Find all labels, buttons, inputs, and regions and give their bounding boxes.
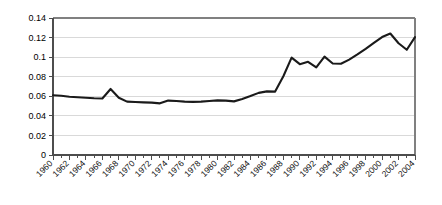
y-tick-label: 0.08: [28, 72, 46, 82]
y-tick-label: 0.12: [28, 33, 46, 43]
y-tick-label: 0.04: [28, 111, 46, 121]
chart-canvas: 00.020.040.060.080.10.120.14 19601962196…: [0, 0, 442, 205]
y-tick-label: 0: [41, 150, 46, 160]
y-tick-label: 0.14: [28, 13, 46, 23]
line-chart-figure: 00.020.040.060.080.10.120.14 19601962196…: [0, 0, 442, 205]
y-tick-label: 0.1: [33, 52, 46, 62]
y-tick-label: 0.02: [28, 131, 46, 141]
y-tick-label: 0.06: [28, 91, 46, 101]
